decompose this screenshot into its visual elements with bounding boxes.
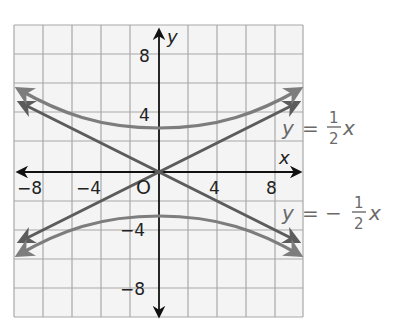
y-tick-neg8: −8 [120,279,145,299]
x-axis-label: x [278,147,290,168]
x-tick-4: 4 [209,178,220,198]
eq1-var: x [342,116,355,140]
y-axis-label: y [166,26,178,47]
hyperbola-graph: y x O −8 −4 4 8 8 4 −4 −8 y = 1 2 x y = … [0,0,393,323]
eq1-equals: = [302,116,319,140]
eq2-sign: − [325,201,342,225]
eq2-var: x [368,201,381,225]
y-tick-neg4: −4 [120,220,145,240]
origin-label: O [136,176,151,198]
eq2-lhs: y [281,201,295,225]
eq1-numerator: 1 [329,109,339,127]
x-tick-8: 8 [266,178,277,198]
eq2-denominator: 2 [354,215,364,233]
x-tick-neg4: −4 [76,178,101,198]
eq2-numerator: 1 [354,194,364,212]
y-tick-4: 4 [139,105,150,125]
x-tick-neg8: −8 [17,178,42,198]
y-tick-8: 8 [139,46,150,66]
eq1-lhs: y [281,116,295,140]
eq2-equals: = [302,201,319,225]
eq1-denominator: 2 [329,130,339,148]
